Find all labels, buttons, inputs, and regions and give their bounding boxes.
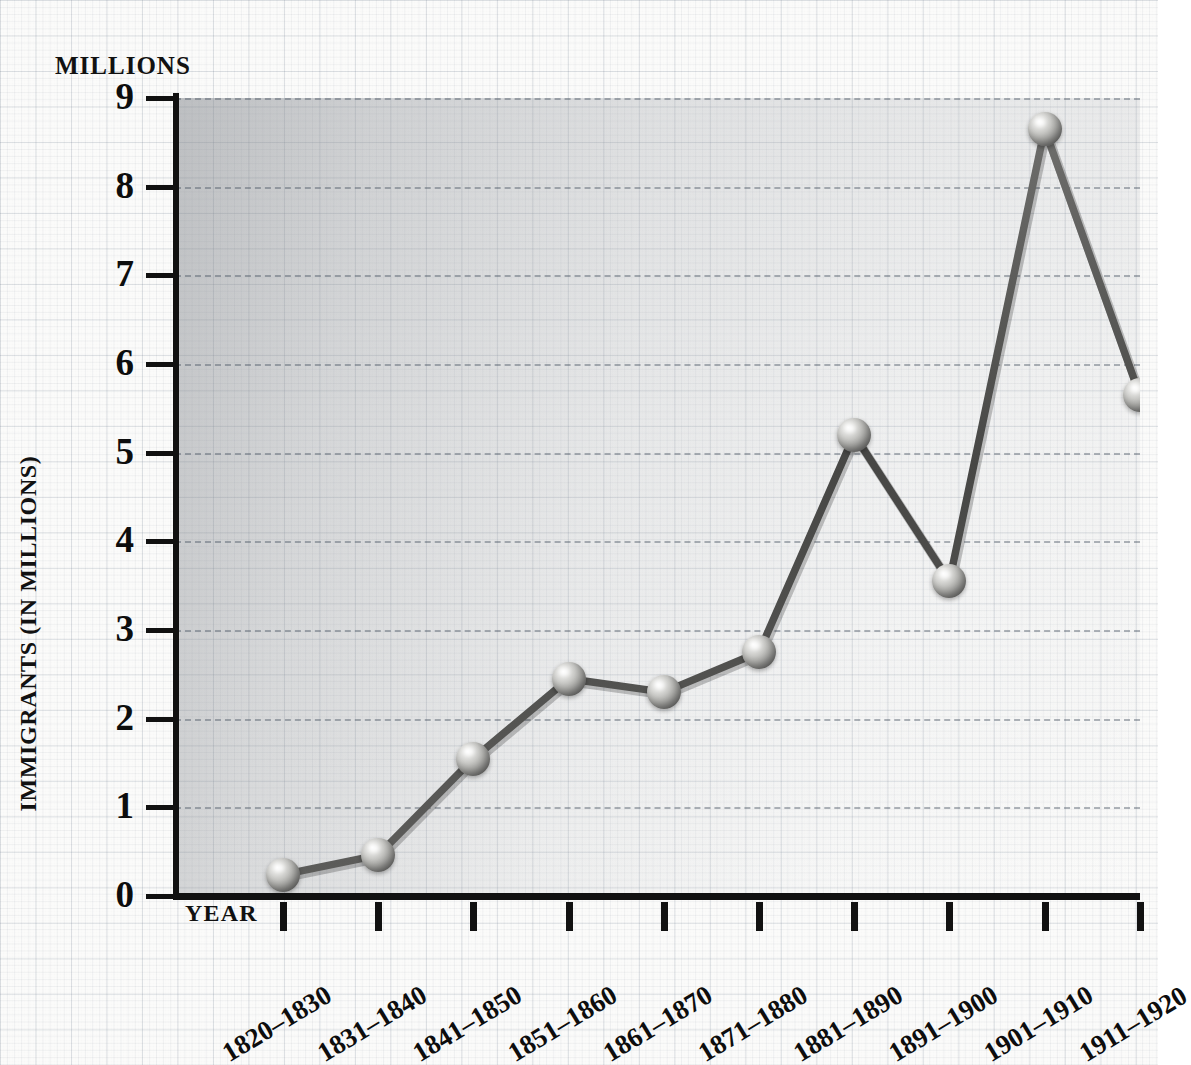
data-point-marker bbox=[647, 675, 681, 709]
gridline bbox=[175, 453, 1140, 455]
y-tick-label: 7 bbox=[90, 255, 134, 292]
plot-shading-top bbox=[175, 98, 1140, 896]
gridline bbox=[175, 541, 1140, 543]
x-axis-line bbox=[173, 893, 1140, 900]
x-tick bbox=[661, 902, 668, 931]
x-tick bbox=[851, 902, 858, 931]
y-tick-label: 4 bbox=[90, 521, 134, 558]
y-tick-label: 3 bbox=[90, 610, 134, 647]
y-tick bbox=[146, 805, 176, 810]
y-tick bbox=[146, 362, 176, 367]
plot-area bbox=[175, 98, 1140, 896]
x-tick bbox=[1137, 902, 1144, 931]
data-point-marker bbox=[1028, 112, 1062, 146]
y-tick-label: 0 bbox=[90, 876, 134, 913]
x-tick bbox=[470, 902, 477, 931]
gridline bbox=[175, 630, 1140, 632]
data-point-marker bbox=[932, 564, 966, 598]
y-tick bbox=[146, 539, 176, 544]
y-tick bbox=[146, 451, 176, 456]
y-tick bbox=[146, 628, 176, 633]
data-point-marker bbox=[742, 635, 776, 669]
gridline bbox=[175, 98, 1140, 100]
gridline bbox=[175, 187, 1140, 189]
data-point-marker bbox=[361, 838, 395, 872]
y-axis-title: IMMIGRANTS (IN MILLIONS) bbox=[15, 384, 42, 884]
chart-title: IMMIGRATION TO THE UNITED STATES, 1820-1… bbox=[0, 0, 1158, 4]
y-axis-line bbox=[173, 93, 179, 899]
y-tick-label: 2 bbox=[90, 699, 134, 736]
y-tick-label: 8 bbox=[90, 167, 134, 204]
x-tick bbox=[1042, 902, 1049, 931]
y-tick-label: 9 bbox=[90, 78, 134, 115]
y-tick-label: 1 bbox=[90, 787, 134, 824]
gridline bbox=[175, 807, 1140, 809]
x-tick bbox=[566, 902, 573, 931]
x-tick bbox=[280, 902, 287, 931]
y-tick bbox=[146, 273, 176, 278]
y-tick-label: 6 bbox=[90, 344, 134, 381]
gridline bbox=[175, 719, 1140, 721]
data-point-marker bbox=[552, 662, 586, 696]
y-tick bbox=[146, 185, 176, 190]
x-tick bbox=[756, 902, 763, 931]
data-point-marker bbox=[456, 742, 490, 776]
x-tick bbox=[375, 902, 382, 931]
gridline bbox=[175, 364, 1140, 366]
gridline bbox=[175, 275, 1140, 277]
y-tick-label: 5 bbox=[90, 433, 134, 470]
y-tick bbox=[146, 894, 176, 899]
x-axis-title: YEAR bbox=[185, 900, 258, 927]
y-tick bbox=[146, 717, 176, 722]
data-point-marker bbox=[837, 418, 871, 452]
y-tick bbox=[146, 96, 176, 101]
data-point-marker bbox=[266, 858, 300, 892]
x-tick bbox=[946, 902, 953, 931]
